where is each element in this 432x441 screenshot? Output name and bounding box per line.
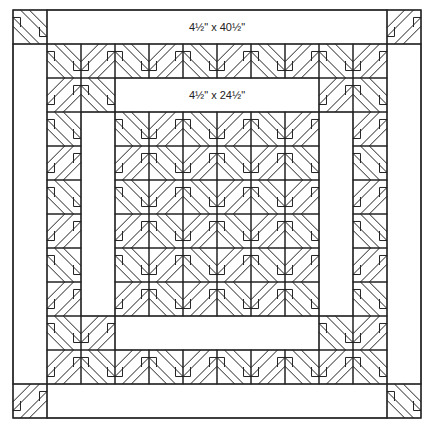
pieced-block (319, 78, 353, 112)
pieced-block (183, 112, 217, 146)
pieced-block (149, 146, 183, 180)
pieced-block (149, 282, 183, 316)
pieced-block (217, 44, 251, 78)
pieced-block (353, 214, 387, 248)
pieced-block (217, 112, 251, 146)
pieced-block (47, 350, 81, 384)
pieced-block (251, 350, 285, 384)
pieced-block (47, 248, 81, 282)
pieced-block (319, 316, 353, 350)
pieced-block (149, 350, 183, 384)
pieced-block (353, 44, 387, 78)
pieced-block (217, 146, 251, 180)
pieced-block (47, 316, 81, 350)
pieced-block (81, 316, 115, 350)
pieced-block (285, 350, 319, 384)
pieced-block (13, 10, 47, 44)
pieced-block (115, 350, 149, 384)
pieced-block (115, 44, 149, 78)
pieced-block (251, 44, 285, 78)
pieced-block (183, 44, 217, 78)
pieced-block (115, 248, 149, 282)
pieced-block (149, 180, 183, 214)
pieced-block (285, 180, 319, 214)
pieced-block (149, 112, 183, 146)
pieced-block (149, 214, 183, 248)
pieced-block (81, 44, 115, 78)
quilt-diagram: 4½" x 40½" 4½" x 24½" (0, 0, 432, 441)
pieced-block (251, 214, 285, 248)
pieced-block (47, 180, 81, 214)
pieced-block (217, 180, 251, 214)
pieced-block (217, 350, 251, 384)
pieced-block (353, 146, 387, 180)
pieced-block (183, 146, 217, 180)
pieced-block (217, 248, 251, 282)
pieced-block (47, 78, 81, 112)
pieced-block (115, 112, 149, 146)
pieced-block (251, 282, 285, 316)
pieced-block (285, 146, 319, 180)
pieced-block (285, 248, 319, 282)
pieced-block (115, 180, 149, 214)
pieced-block (251, 146, 285, 180)
pieced-block (81, 78, 115, 112)
pieced-block (353, 282, 387, 316)
pieced-block (353, 112, 387, 146)
pieced-block (251, 248, 285, 282)
pieced-block (217, 282, 251, 316)
pieced-block (353, 78, 387, 112)
pieced-block (115, 146, 149, 180)
pieced-block (285, 282, 319, 316)
pieced-block (319, 44, 353, 78)
pieced-block (285, 112, 319, 146)
pieced-block (353, 180, 387, 214)
inner-border-label: 4½" x 24½" (189, 89, 245, 101)
pieced-block (285, 214, 319, 248)
pieced-block (353, 316, 387, 350)
pieced-block (285, 44, 319, 78)
pieced-block (47, 282, 81, 316)
pieced-block (183, 282, 217, 316)
pieced-block (183, 214, 217, 248)
pieced-block (149, 248, 183, 282)
pieced-block (47, 146, 81, 180)
pieced-block (183, 248, 217, 282)
pieced-block (251, 112, 285, 146)
pieced-block (251, 180, 285, 214)
pieced-block (47, 44, 81, 78)
pieced-block (149, 44, 183, 78)
outer-border-label: 4½" x 40½" (189, 21, 245, 33)
pieced-block (183, 350, 217, 384)
pieced-block (387, 10, 421, 44)
pieced-block (13, 384, 47, 418)
pieced-block (81, 350, 115, 384)
pieced-block (47, 112, 81, 146)
pieced-block (47, 214, 81, 248)
pieced-block (353, 248, 387, 282)
pieced-block (319, 350, 353, 384)
pieced-block (353, 350, 387, 384)
pieced-block (115, 282, 149, 316)
pieced-block (115, 214, 149, 248)
pieced-block (217, 214, 251, 248)
pieced-blocks (13, 10, 421, 418)
pieced-block (183, 180, 217, 214)
pieced-block (387, 384, 421, 418)
